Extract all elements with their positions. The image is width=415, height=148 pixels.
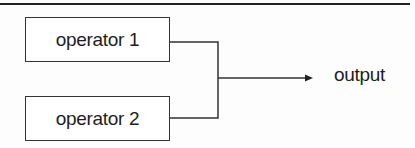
merge-connector xyxy=(170,42,218,118)
arrowhead-icon xyxy=(305,75,313,82)
output-label: output xyxy=(334,64,385,86)
